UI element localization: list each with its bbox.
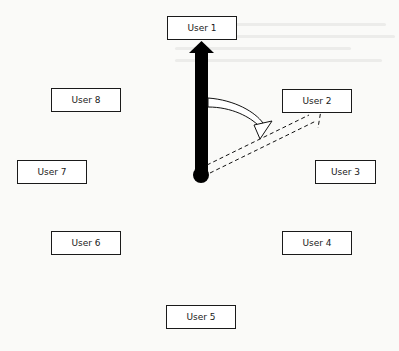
user-7-label: User 7 bbox=[37, 167, 66, 177]
user-6-label: User 6 bbox=[71, 238, 100, 248]
user-3-node: User 3 bbox=[315, 160, 376, 184]
user-2-node: User 2 bbox=[282, 89, 352, 113]
user-7-node: User 7 bbox=[17, 160, 87, 184]
user-5-label: User 5 bbox=[186, 312, 215, 322]
user-1-node: User 1 bbox=[167, 16, 237, 40]
user-8-node: User 8 bbox=[51, 88, 121, 112]
user-6-node: User 6 bbox=[51, 231, 121, 255]
user-4-label: User 4 bbox=[302, 238, 331, 248]
user-2-label: User 2 bbox=[302, 96, 331, 106]
dashed-arrow-to-user-2 bbox=[207, 110, 321, 173]
center-node-dot bbox=[193, 167, 209, 183]
thick-arrow-to-user-1 bbox=[189, 41, 214, 176]
user-3-label: User 3 bbox=[331, 167, 360, 177]
user-8-label: User 8 bbox=[71, 95, 100, 105]
curved-redirect-arrow bbox=[208, 98, 272, 139]
user-4-node: User 4 bbox=[282, 231, 352, 255]
user-1-label: User 1 bbox=[187, 23, 216, 33]
user-5-node: User 5 bbox=[166, 305, 236, 329]
